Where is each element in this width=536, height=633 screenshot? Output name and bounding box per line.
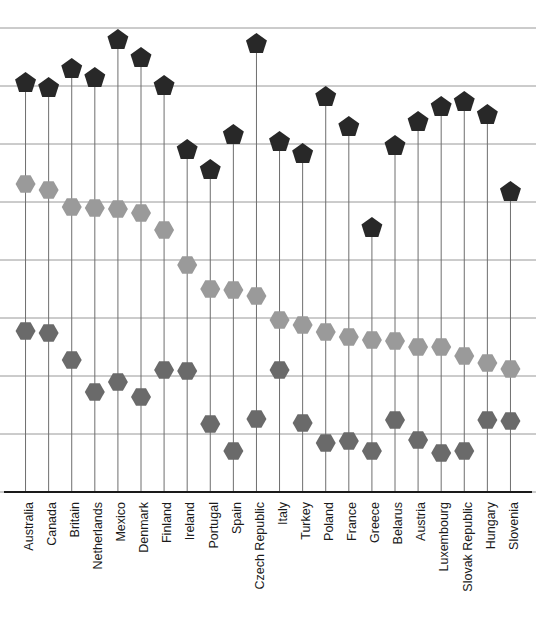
- x-axis-labels: AustraliaCanadaBritainNetherlandsMexicoD…: [22, 501, 521, 591]
- series-mid-markers: [16, 175, 521, 377]
- marker-low: [362, 442, 382, 459]
- marker-low: [200, 415, 220, 432]
- marker-mid: [200, 280, 220, 297]
- marker-high: [177, 139, 198, 159]
- stem-chart: AustraliaCanadaBritainNetherlandsMexicoD…: [0, 0, 536, 633]
- marker-mid: [223, 281, 243, 298]
- x-axis-label: Portugal: [207, 502, 221, 549]
- marker-mid: [362, 331, 382, 348]
- marker-high: [269, 131, 290, 151]
- x-axis-label: Mexico: [114, 502, 128, 542]
- x-axis-label: Netherlands: [91, 502, 105, 569]
- x-axis-label: Finland: [160, 502, 174, 543]
- x-axis-label: Turkey: [299, 501, 313, 539]
- marker-low: [385, 411, 405, 428]
- marker-high: [500, 181, 521, 201]
- marker-mid: [316, 323, 336, 340]
- marker-mid: [477, 354, 497, 371]
- x-axis-label: Luxembourg: [437, 502, 451, 572]
- marker-low: [500, 412, 520, 429]
- marker-low: [39, 324, 59, 341]
- marker-low: [223, 442, 243, 459]
- marker-mid: [16, 175, 36, 192]
- marker-low: [85, 383, 105, 400]
- marker-high: [361, 217, 382, 237]
- chart-root: AustraliaCanadaBritainNetherlandsMexicoD…: [0, 0, 536, 633]
- marker-high: [477, 104, 498, 124]
- marker-low: [62, 351, 82, 368]
- marker-high: [431, 96, 452, 116]
- x-axis-label: Spain: [230, 502, 244, 534]
- marker-mid: [293, 316, 313, 333]
- x-axis-label: Slovak Republic: [461, 502, 475, 592]
- marker-high: [38, 77, 59, 97]
- x-axis-label: Denmark: [137, 501, 151, 552]
- x-axis-label: Italy: [276, 501, 290, 525]
- marker-mid: [39, 181, 59, 198]
- x-axis-label: Czech Republic: [253, 502, 267, 590]
- x-axis-label: Britain: [68, 502, 82, 537]
- marker-mid: [108, 200, 128, 217]
- marker-mid: [131, 204, 151, 221]
- x-axis-label: Poland: [322, 502, 336, 541]
- marker-low: [316, 434, 336, 451]
- marker-mid: [62, 198, 82, 215]
- marker-high: [15, 72, 36, 92]
- marker-high: [131, 47, 152, 67]
- x-axis-label: Ireland: [183, 502, 197, 540]
- marker-high: [200, 159, 221, 179]
- marker-high: [84, 67, 105, 87]
- marker-high: [292, 143, 313, 163]
- marker-mid: [339, 328, 359, 345]
- marker-high: [154, 75, 175, 95]
- x-axis-label: Austria: [414, 502, 428, 541]
- marker-high: [315, 86, 336, 106]
- x-axis-label: Australia: [22, 502, 36, 551]
- x-axis-label: Slovenia: [507, 502, 521, 550]
- marker-high: [408, 111, 429, 131]
- x-axis-label: Hungary: [484, 501, 498, 549]
- x-axis-label: Canada: [45, 502, 59, 546]
- x-axis-label: Greece: [368, 502, 382, 543]
- marker-high: [338, 116, 359, 136]
- x-axis-label: France: [345, 502, 359, 541]
- marker-mid: [408, 338, 428, 355]
- marker-high: [223, 124, 244, 144]
- marker-mid: [154, 221, 174, 238]
- marker-high: [61, 58, 82, 78]
- marker-low: [16, 322, 36, 339]
- marker-low: [431, 444, 451, 461]
- marker-high: [107, 29, 128, 49]
- marker-high: [454, 91, 475, 111]
- marker-low: [177, 362, 197, 379]
- marker-mid: [177, 256, 197, 273]
- marker-mid: [454, 347, 474, 364]
- marker-mid: [246, 287, 266, 304]
- marker-low: [131, 388, 151, 405]
- marker-low: [246, 410, 266, 427]
- marker-mid: [270, 311, 290, 328]
- marker-low: [293, 414, 313, 431]
- marker-mid: [385, 332, 405, 349]
- marker-low: [454, 442, 474, 459]
- marker-high: [385, 135, 406, 155]
- marker-mid: [431, 338, 451, 355]
- marker-mid: [500, 360, 520, 377]
- marker-low: [477, 411, 497, 428]
- x-axis-label: Belarus: [391, 502, 405, 544]
- marker-low: [339, 432, 359, 449]
- marker-high: [246, 33, 267, 53]
